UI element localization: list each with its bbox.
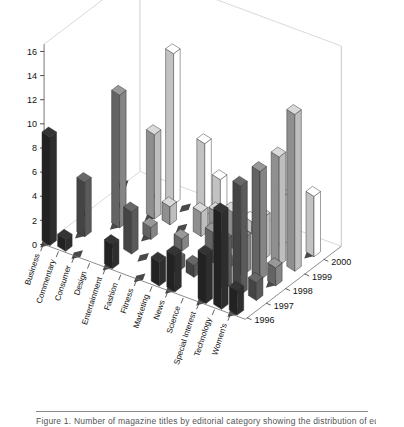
bar-chart-3d: 0246810121416 BusinessCommentaryConsumer…	[0, 0, 404, 400]
svg-text:8: 8	[32, 143, 37, 153]
z-tick-label: 1999	[312, 272, 332, 282]
svg-text:0: 0	[32, 240, 37, 250]
bar	[271, 147, 286, 266]
x-tick-label: Consumer	[53, 264, 73, 302]
bar	[146, 125, 161, 219]
bar	[167, 246, 182, 292]
y-axis: 0246810121416	[27, 47, 44, 250]
z-tick-label: 2000	[331, 257, 351, 267]
svg-text:6: 6	[32, 167, 37, 177]
bar	[58, 229, 73, 251]
bar	[166, 44, 181, 205]
figure-caption: Figure 1. Number of magazine titles by e…	[36, 416, 376, 427]
x-tick-label: Marketing	[132, 293, 151, 329]
z-tick-label: 1998	[293, 286, 313, 296]
bar	[104, 235, 119, 269]
bar	[162, 197, 177, 225]
z-tick-label: 1997	[274, 301, 294, 311]
svg-text:16: 16	[27, 47, 37, 57]
bar	[306, 186, 321, 256]
bar	[248, 272, 263, 300]
bar	[42, 127, 57, 246]
svg-text:4: 4	[32, 191, 37, 201]
x-tick-label: News	[152, 299, 167, 321]
x-tick-label: Science	[165, 304, 183, 334]
bar	[252, 162, 267, 281]
x-tick-label: Fashion	[102, 282, 119, 312]
x-tick-label: Design	[72, 270, 88, 296]
caption-divider	[36, 411, 368, 412]
bar	[229, 281, 244, 315]
bar	[233, 176, 248, 295]
x-tick-label: Women's	[210, 322, 229, 356]
bar	[124, 202, 139, 254]
bar	[151, 252, 166, 286]
svg-text:12: 12	[27, 95, 37, 105]
bar	[268, 258, 283, 286]
svg-text:14: 14	[27, 71, 37, 81]
bar	[214, 203, 229, 310]
bar	[77, 172, 92, 236]
svg-text:2: 2	[32, 216, 37, 226]
x-tick-label: Business	[23, 253, 42, 287]
x-tick-label: Fitness	[119, 287, 136, 314]
figure-container: 0246810121416 BusinessCommentaryConsumer…	[0, 0, 404, 427]
bar	[287, 105, 302, 272]
bar	[198, 245, 213, 303]
svg-text:10: 10	[27, 119, 37, 129]
z-tick-label: 1996	[254, 315, 274, 325]
